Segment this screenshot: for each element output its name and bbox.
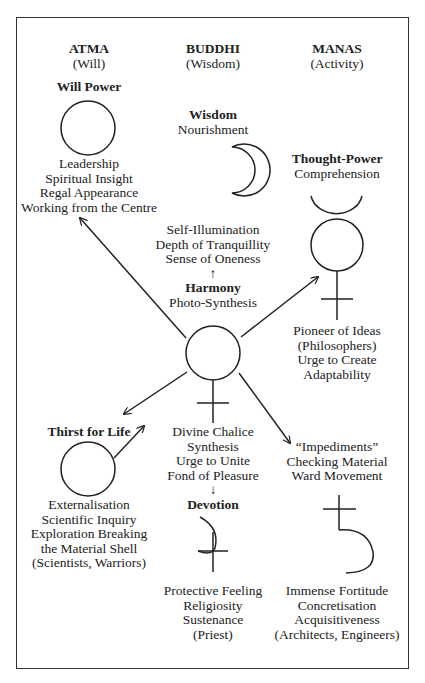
devotion-heading: Devotion <box>167 498 259 513</box>
trait: Synthesis <box>167 440 259 455</box>
node-heading: Thought-Power <box>292 152 383 167</box>
trait: Depth of Tranquillity <box>156 238 271 253</box>
thought-power-heading: Thought-Power Comprehension <box>292 152 383 181</box>
trait: Protective Feeling <box>164 584 263 599</box>
saturn-traits: Immense Fortitude Concretisation Acquisi… <box>274 584 399 642</box>
trait: Sense of Oneness <box>156 252 271 267</box>
trait: Urge to Unite <box>167 454 259 469</box>
trait: Pioneer of Ideas <box>293 324 381 339</box>
column-header-manas: MANAS (Activity) <box>310 42 363 71</box>
trait: Regal Appearance <box>21 186 157 201</box>
trait: (Priest) <box>164 628 263 643</box>
trait: Exploration Breaking <box>31 527 148 542</box>
wisdom-heading: Wisdom Nourishment <box>178 108 249 137</box>
saturn-symbol-icon <box>323 495 373 573</box>
venus-symbol-icon <box>186 326 240 423</box>
thirst-for-life-heading: Thirst for Life <box>48 425 131 440</box>
trait: Leadership <box>21 157 157 172</box>
column-title: ATMA <box>69 42 109 57</box>
trait: Adaptability <box>293 368 381 383</box>
wisdom-traits: Self-Illumination Depth of Tranquillity … <box>156 223 271 311</box>
trait: “Impediments” <box>287 440 388 455</box>
trait: Ward Movement <box>287 469 388 484</box>
mercury-symbol-icon <box>311 196 363 320</box>
node-heading: Thirst for Life <box>48 424 131 439</box>
arrow-down-icon: ↓ <box>167 483 259 498</box>
sun-symbol-icon <box>61 101 115 155</box>
trait: Sustenance <box>164 613 263 628</box>
column-subtitle: (Activity) <box>310 57 363 72</box>
node-subheading: Comprehension <box>292 167 383 182</box>
trait: Scientific Inquiry <box>31 513 148 528</box>
trait: Fond of Pleasure <box>167 469 259 484</box>
column-header-buddhi: BUDDHI (Wisdom) <box>186 42 240 71</box>
jupiter-symbol-icon <box>198 517 228 572</box>
trait: Working from the Centre <box>21 201 157 216</box>
divine-chalice-traits: Divine Chalice Synthesis Urge to Unite F… <box>167 425 259 513</box>
harmony-heading: Harmony <box>156 281 271 296</box>
column-subtitle: (Wisdom) <box>186 57 240 72</box>
arrow-to-thirst-for-life <box>124 372 187 414</box>
column-subtitle: (Will) <box>69 57 109 72</box>
trait: Spiritual Insight <box>21 172 157 187</box>
node-heading: Wisdom <box>178 108 249 123</box>
moon-symbol-icon <box>232 144 270 196</box>
column-title: BUDDHI <box>186 42 240 57</box>
trait: Religiosity <box>164 599 263 614</box>
trait: (Scientists, Warriors) <box>31 556 148 571</box>
column-header-atma: ATMA (Will) <box>69 42 109 71</box>
trait: Externalisation <box>31 498 148 513</box>
trait: Self-Illumination <box>156 223 271 238</box>
trait: Checking Material <box>287 455 388 470</box>
trait: the Material Shell <box>31 542 148 557</box>
will-power-traits: Leadership Spiritual Insight Regal Appea… <box>21 157 157 215</box>
impediments-traits: “Impediments” Checking Material Ward Mov… <box>287 440 388 484</box>
will-power-heading: Will Power <box>57 80 122 95</box>
node-heading: Will Power <box>57 79 122 94</box>
thought-power-traits: Pioneer of Ideas (Philosophers) Urge to … <box>293 324 381 382</box>
arrow-up-icon: ↑ <box>156 267 271 282</box>
column-title: MANAS <box>310 42 363 57</box>
trait: Immense Fortitude <box>274 584 399 599</box>
trait: Concretisation <box>274 599 399 614</box>
trait: (Architects, Engineers) <box>274 628 399 643</box>
trait: (Philosophers) <box>293 339 381 354</box>
devotion-traits: Protective Feeling Religiosity Sustenanc… <box>164 584 263 642</box>
trait: Divine Chalice <box>167 425 259 440</box>
harmony-subheading: Photo-Synthesis <box>156 296 271 311</box>
node-subheading: Nourishment <box>178 123 249 138</box>
trait: Urge to Create <box>293 353 381 368</box>
thirst-for-life-traits: Externalisation Scientific Inquiry Explo… <box>31 498 148 571</box>
trait: Acquisitiveness <box>274 613 399 628</box>
